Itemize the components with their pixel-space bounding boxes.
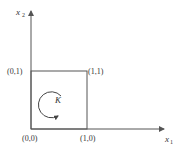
x-axis-subscript: 1 — [170, 139, 173, 145]
corner-label-origin: (0,0) — [22, 134, 38, 143]
y-axis-label: x — [15, 7, 20, 17]
y-axis-subscript: 2 — [22, 12, 25, 18]
diagram-canvas: x 2 x 1 (0,1) (1,1) (0,0) (1,0) K — [0, 0, 184, 151]
region-label: K — [54, 95, 62, 105]
corner-label-top-left: (0,1) — [7, 67, 23, 76]
corner-label-top-right: (1,1) — [88, 67, 104, 76]
corner-label-bottom-right: (1,0) — [80, 134, 96, 143]
x-axis-label: x — [164, 134, 169, 144]
